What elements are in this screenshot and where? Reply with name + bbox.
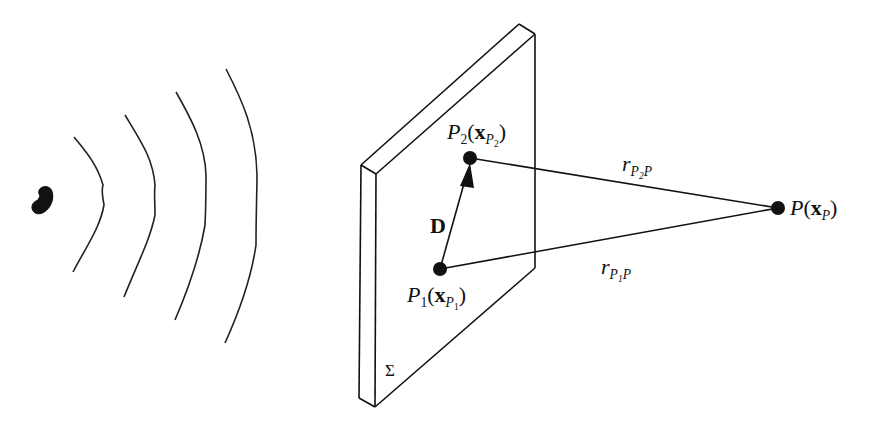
label-p1-close: )	[459, 282, 466, 307]
wavefront-3	[175, 92, 206, 320]
wavefront-4	[225, 69, 257, 343]
rays	[440, 158, 778, 269]
point-p1-dot	[433, 262, 447, 276]
label-r-p1p-sub-c: P	[623, 267, 631, 282]
label-p1-open: (	[427, 282, 434, 307]
label-p2-name: P	[447, 119, 460, 144]
label-r-p1p-r: r	[601, 254, 610, 279]
label-r-p2p-r: r	[622, 151, 631, 176]
label-p1-vec-sub: P	[446, 295, 454, 310]
point-p-dot	[771, 201, 785, 215]
vector-d-arrowhead-icon	[460, 163, 474, 188]
screen-sigma	[359, 24, 535, 407]
label-p1-vec: x	[435, 282, 446, 307]
label-r-p1p: rP1P	[601, 256, 631, 283]
label-vector-d: D	[430, 215, 446, 237]
label-p-close: )	[830, 195, 837, 220]
label-p-vec: x	[811, 195, 822, 220]
label-p-vec-sub: P	[822, 208, 830, 223]
diffraction-diagram: P2(xP2) P1(xP1) P(xP) D rP2P rP1P Σ	[0, 0, 873, 433]
label-p: P(xP)	[790, 197, 837, 222]
label-p1: P1(xP1)	[407, 284, 466, 311]
label-p-open: (	[803, 195, 810, 220]
point-p2-dot	[463, 151, 477, 165]
wavefront-1	[73, 137, 104, 272]
wavefronts	[73, 69, 257, 343]
label-sigma: Σ	[385, 362, 395, 379]
label-r-p2p-sub-c: P	[644, 164, 652, 179]
label-p2-vec-sub: P	[486, 132, 494, 147]
point-source-icon	[32, 187, 53, 214]
label-r-p2p-sub-a: P	[631, 164, 639, 179]
label-p-name: P	[790, 195, 803, 220]
label-p1-name: P	[407, 282, 420, 307]
label-r-p1p-sub-a: P	[610, 267, 618, 282]
label-p2-vec: x	[475, 119, 486, 144]
label-p2-open: (	[467, 119, 474, 144]
label-r-p2p: rP2P	[622, 153, 652, 180]
label-p2: P2(xP2)	[447, 121, 506, 148]
wavefront-2	[124, 115, 155, 297]
label-p2-close: )	[499, 119, 506, 144]
